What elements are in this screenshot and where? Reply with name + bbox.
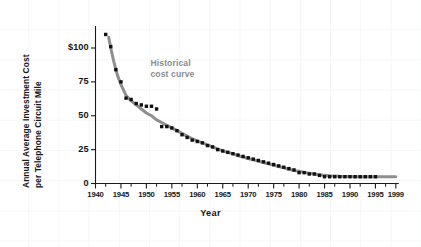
- data-point: [292, 168, 295, 171]
- data-point: [353, 175, 356, 178]
- data-point: [231, 152, 234, 155]
- data-point: [221, 149, 224, 152]
- data-point: [216, 148, 219, 151]
- data-point: [252, 157, 255, 160]
- data-point: [282, 166, 285, 169]
- data-point: [185, 136, 188, 139]
- data-point: [114, 68, 117, 71]
- data-point: [104, 33, 107, 36]
- annotation-line-1: Historical: [150, 58, 194, 69]
- data-point: [201, 141, 204, 144]
- data-point: [338, 175, 341, 178]
- data-point: [262, 160, 265, 163]
- data-point: [140, 103, 143, 106]
- x-axis-tick-label: 1960: [183, 190, 211, 199]
- data-point: [206, 144, 209, 147]
- data-point: [135, 102, 138, 105]
- data-point: [160, 125, 163, 128]
- data-point: [287, 167, 290, 170]
- data-point: [196, 140, 199, 143]
- y-axis-tick-label: 75: [78, 76, 88, 86]
- data-point: [247, 156, 250, 159]
- data-point: [328, 175, 331, 178]
- chart-figure: Annual Average Investment Cost per Telep…: [0, 0, 421, 247]
- x-axis-tick-label: 1985: [311, 190, 339, 199]
- y-axis-tick-label: 0: [83, 178, 88, 188]
- x-axis-tick-label: 1970: [234, 190, 262, 199]
- historical-cost-curve-label: Historical cost curve: [150, 58, 194, 80]
- data-point: [150, 105, 153, 108]
- data-point: [124, 96, 127, 99]
- x-axis-tick-label: 1975: [260, 190, 288, 199]
- data-point: [119, 80, 122, 83]
- x-axis-tick-label: 1940: [82, 190, 110, 199]
- y-axis-title: Annual Average Investment Cost per Telep…: [12, 16, 62, 188]
- y-axis-title-line-1: Annual Average Investment Cost: [21, 54, 31, 188]
- data-point: [323, 175, 326, 178]
- x-axis-tick-label: 1955: [158, 190, 186, 199]
- data-point: [374, 175, 377, 178]
- data-point: [145, 105, 148, 108]
- data-point: [109, 45, 112, 48]
- data-point: [180, 133, 183, 136]
- data-point: [257, 159, 260, 162]
- data-point: [129, 98, 132, 101]
- data-point: [191, 138, 194, 141]
- x-axis-tick-label: 1945: [107, 190, 135, 199]
- data-point: [308, 172, 311, 175]
- data-point: [358, 175, 361, 178]
- data-point: [175, 129, 178, 132]
- x-axis-tick-label: 1965: [209, 190, 237, 199]
- data-point: [272, 163, 275, 166]
- data-point: [343, 175, 346, 178]
- data-point: [165, 125, 168, 128]
- data-point: [348, 175, 351, 178]
- data-point: [277, 164, 280, 167]
- data-point: [236, 153, 239, 156]
- data-point: [155, 107, 158, 110]
- data-point: [313, 172, 316, 175]
- x-axis-tick-label: 1950: [132, 190, 160, 199]
- y-axis-title-line-2: per Telephone Circuit Mile: [33, 81, 43, 188]
- x-axis-tick-label: 1990: [336, 190, 364, 199]
- data-point: [318, 174, 321, 177]
- y-axis-tick-label: 50: [78, 110, 88, 120]
- annotation-line-2: cost curve: [150, 69, 194, 80]
- data-point: [333, 175, 336, 178]
- y-axis-tick-label: $100: [68, 42, 88, 52]
- y-axis-tick-label: 25: [78, 144, 88, 154]
- data-point: [226, 151, 229, 154]
- data-point: [241, 155, 244, 158]
- x-axis-tick-label: 1999: [382, 190, 410, 199]
- x-axis-title: Year: [0, 208, 421, 218]
- data-point: [170, 126, 173, 129]
- data-point: [211, 145, 214, 148]
- data-point: [267, 161, 270, 164]
- data-point: [364, 175, 367, 178]
- data-point: [369, 175, 372, 178]
- data-point: [302, 171, 305, 174]
- x-axis-tick-label: 1980: [285, 190, 313, 199]
- data-point: [297, 171, 300, 174]
